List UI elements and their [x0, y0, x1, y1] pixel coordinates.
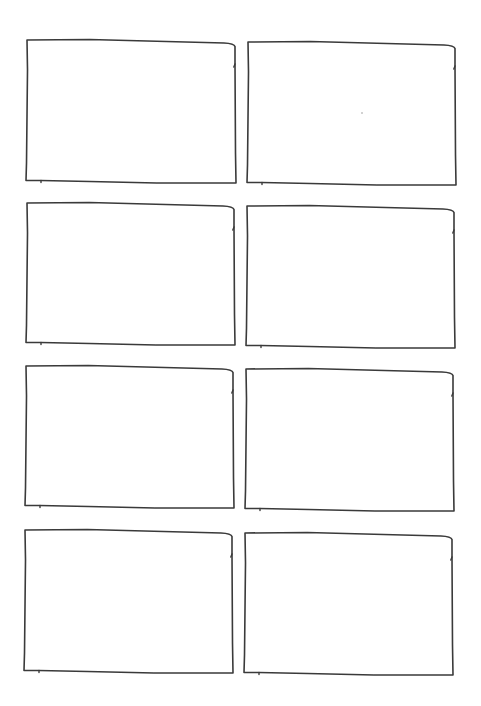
frame-border [247, 42, 456, 186]
storyboard-frame-5 [25, 366, 234, 509]
storyboard-sheet [0, 0, 481, 706]
storyboard-frame-3 [26, 203, 235, 346]
storyboard-frame-2 [247, 42, 456, 186]
storyboard-frame-1 [26, 40, 236, 184]
frame-border [26, 40, 236, 184]
storyboard-frame-8 [244, 533, 453, 676]
stray-dot [361, 112, 363, 114]
storyboard-frame-7 [24, 530, 233, 674]
frame-border [26, 203, 235, 346]
frame-border [246, 206, 455, 349]
storyboard-frame-4 [246, 206, 455, 349]
storyboard-frame-6 [245, 369, 454, 512]
frame-border [244, 533, 453, 676]
frame-border [25, 366, 234, 509]
frames-layer [24, 40, 456, 676]
frame-border [24, 530, 233, 674]
frame-border [245, 369, 454, 512]
